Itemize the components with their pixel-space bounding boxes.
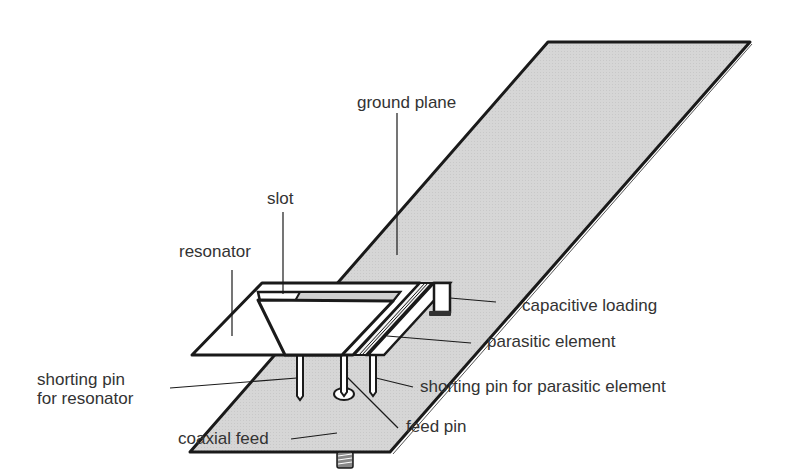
label-shorting-pin-resonator: shorting pin for resonator: [37, 370, 133, 408]
label-feed-pin: feed pin: [406, 417, 467, 436]
shorting-pin-resonator: [297, 355, 303, 400]
label-ground-plane: ground plane: [357, 93, 456, 112]
label-resonator: resonator: [179, 242, 251, 261]
label-slot: slot: [267, 189, 293, 208]
feed-pin: [341, 355, 347, 396]
label-shorting-pin-parasitic: shorting pin for parasitic element: [420, 377, 666, 396]
shorting-pin-parasitic: [370, 355, 376, 396]
coaxial-feed-connector: [337, 452, 353, 468]
label-coaxial-feed: coaxial feed: [178, 429, 269, 448]
label-parasitic-element: parasitic element: [487, 332, 616, 351]
label-capacitive-loading: capacitive loading: [522, 296, 657, 315]
